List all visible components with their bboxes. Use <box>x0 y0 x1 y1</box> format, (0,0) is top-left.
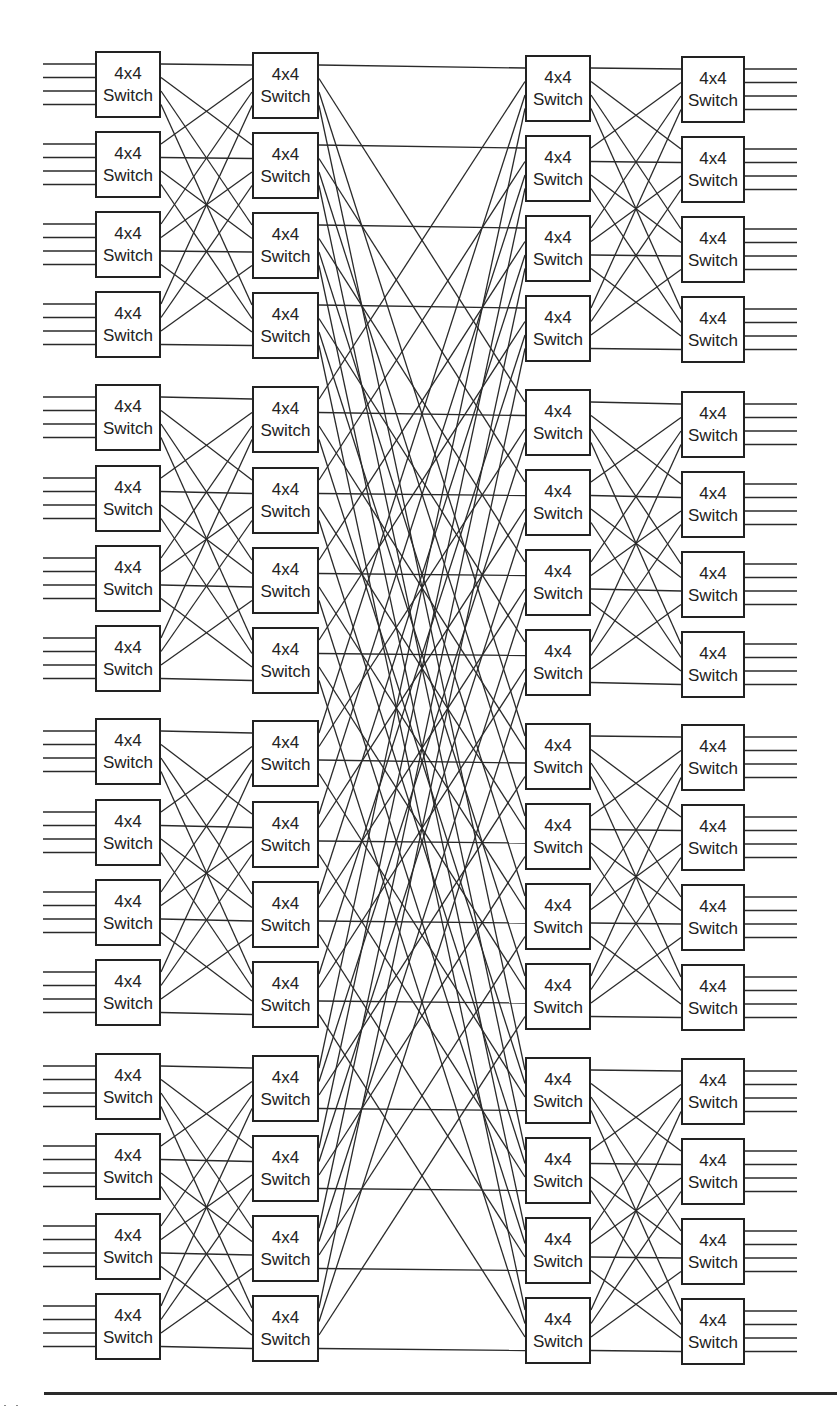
switch-size-label: 4x4 <box>272 973 299 995</box>
switch-size-label: 4x4 <box>699 736 726 758</box>
switch-box-stage-1-input-2: 4x4 Switch <box>95 211 161 278</box>
switch-box-stage-3-7: 4x4 Switch <box>525 629 591 696</box>
switch-type-label: Switch <box>533 917 583 939</box>
switch-type-label: Switch <box>533 1091 583 1113</box>
switch-size-label: 4x4 <box>699 1310 726 1332</box>
switch-type-label: Switch <box>103 1247 153 1269</box>
switch-type-label: Switch <box>103 659 153 681</box>
switch-size-label: 4x4 <box>544 307 571 329</box>
stage3-stage4-link <box>591 68 681 69</box>
switch-size-label: 4x4 <box>114 971 141 993</box>
switch-box-stage-2-13: 4x4 Switch <box>252 1135 319 1202</box>
switch-size-label: 4x4 <box>272 1147 299 1169</box>
switch-box-stage-1-input-15: 4x4 Switch <box>95 1293 161 1360</box>
switch-box-stage-4-output-14: 4x4 Switch <box>681 1218 745 1285</box>
stage2-stage3-link <box>319 322 525 641</box>
switch-type-label: Switch <box>103 165 153 187</box>
switch-size-label: 4x4 <box>114 557 141 579</box>
switch-box-stage-3-3: 4x4 Switch <box>525 295 591 362</box>
switch-box-stage-4-output-1: 4x4 Switch <box>681 136 745 203</box>
switch-type-label: Switch <box>533 837 583 859</box>
switch-type-label: Switch <box>688 998 738 1020</box>
page-corner-mark <box>2 1404 42 1407</box>
stage2-stage3-link <box>319 305 525 308</box>
switch-type-label: Switch <box>533 663 583 685</box>
switch-size-label: 4x4 <box>699 816 726 838</box>
switch-type-label: Switch <box>103 1167 153 1189</box>
switch-type-label: Switch <box>533 757 583 779</box>
switch-box-stage-1-input-11: 4x4 Switch <box>95 959 161 1026</box>
switch-size-label: 4x4 <box>272 732 299 754</box>
switch-box-stage-4-output-9: 4x4 Switch <box>681 804 745 871</box>
switch-type-label: Switch <box>688 918 738 940</box>
stage1-stage2-link <box>161 64 252 65</box>
switch-box-stage-3-13: 4x4 Switch <box>525 1137 591 1204</box>
switch-box-stage-3-2: 4x4 Switch <box>525 215 591 282</box>
switch-type-label: Switch <box>260 501 310 523</box>
switch-box-stage-3-9: 4x4 Switch <box>525 803 591 870</box>
switch-type-label: Switch <box>688 585 738 607</box>
switch-size-label: 4x4 <box>699 68 726 90</box>
switch-box-stage-3-10: 4x4 Switch <box>525 883 591 950</box>
switch-box-stage-4-output-8: 4x4 Switch <box>681 724 745 791</box>
stage2-stage3-link <box>319 777 525 1096</box>
switch-type-label: Switch <box>688 425 738 447</box>
switch-type-label: Switch <box>688 758 738 780</box>
switch-type-label: Switch <box>260 1249 310 1271</box>
switch-type-label: Switch <box>103 325 153 347</box>
switch-box-stage-4-output-10: 4x4 Switch <box>681 884 745 951</box>
switch-box-stage-3-8: 4x4 Switch <box>525 723 591 790</box>
switch-size-label: 4x4 <box>272 224 299 246</box>
stage3-stage4-link <box>591 1351 681 1352</box>
switch-type-label: Switch <box>688 838 738 860</box>
stage1-stage2-link <box>161 1013 252 1015</box>
switch-size-label: 4x4 <box>699 403 726 425</box>
switch-type-label: Switch <box>260 1089 310 1111</box>
switch-size-label: 4x4 <box>544 401 571 423</box>
switch-box-stage-4-output-15: 4x4 Switch <box>681 1298 745 1365</box>
switch-box-stage-4-output-2: 4x4 Switch <box>681 216 745 283</box>
switch-box-stage-2-3: 4x4 Switch <box>252 292 319 359</box>
switch-size-label: 4x4 <box>114 303 141 325</box>
stage3-stage4-link <box>591 736 681 737</box>
switch-size-label: 4x4 <box>699 563 726 585</box>
switch-box-stage-4-output-0: 4x4 Switch <box>681 56 745 123</box>
switch-type-label: Switch <box>260 754 310 776</box>
switch-type-label: Switch <box>688 170 738 192</box>
switch-type-label: Switch <box>260 166 310 188</box>
switch-size-label: 4x4 <box>114 143 141 165</box>
switch-size-label: 4x4 <box>114 396 141 418</box>
switch-box-stage-1-input-7: 4x4 Switch <box>95 625 161 692</box>
switch-type-label: Switch <box>260 326 310 348</box>
switch-size-label: 4x4 <box>272 1067 299 1089</box>
switch-box-stage-1-input-6: 4x4 Switch <box>95 545 161 612</box>
switch-size-label: 4x4 <box>544 147 571 169</box>
switch-type-label: Switch <box>533 423 583 445</box>
switch-type-label: Switch <box>688 1172 738 1194</box>
switch-box-stage-1-input-3: 4x4 Switch <box>95 291 161 358</box>
switch-box-stage-1-input-1: 4x4 Switch <box>95 131 161 198</box>
switch-size-label: 4x4 <box>272 1307 299 1329</box>
stage2-stage3-link <box>319 242 525 561</box>
switch-size-label: 4x4 <box>272 813 299 835</box>
switch-box-stage-3-11: 4x4 Switch <box>525 963 591 1030</box>
switch-box-stage-1-input-4: 4x4 Switch <box>95 384 161 451</box>
switch-size-label: 4x4 <box>699 148 726 170</box>
switch-type-label: Switch <box>260 420 310 442</box>
switch-box-stage-1-input-9: 4x4 Switch <box>95 799 161 866</box>
switch-type-label: Switch <box>260 1329 310 1351</box>
switch-type-label: Switch <box>533 997 583 1019</box>
switch-box-stage-2-14: 4x4 Switch <box>252 1215 319 1282</box>
switch-box-stage-1-input-0: 4x4 Switch <box>95 51 161 118</box>
switch-box-stage-4-output-7: 4x4 Switch <box>681 631 745 698</box>
switch-size-label: 4x4 <box>544 895 571 917</box>
switch-type-label: Switch <box>688 1252 738 1274</box>
switch-type-label: Switch <box>103 833 153 855</box>
stage2-stage3-link <box>319 225 525 228</box>
switch-size-label: 4x4 <box>544 227 571 249</box>
stage2-stage3-link <box>319 1189 525 1191</box>
switch-type-label: Switch <box>260 246 310 268</box>
switch-type-label: Switch <box>103 499 153 521</box>
stage2-stage3-link <box>319 65 525 68</box>
switch-type-label: Switch <box>533 1251 583 1273</box>
